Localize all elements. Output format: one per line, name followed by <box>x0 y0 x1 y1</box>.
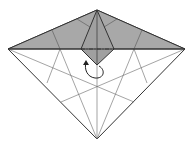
origami-diagram <box>0 0 193 148</box>
